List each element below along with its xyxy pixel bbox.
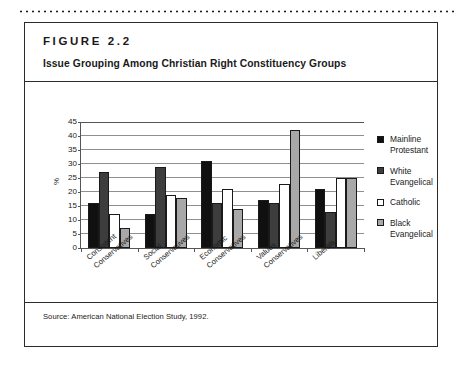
y-tick-label: 0 [73, 244, 77, 252]
bar [315, 189, 326, 248]
figure-header: FIGURE 2.2 Issue Grouping Among Christia… [25, 23, 437, 82]
legend-item: Catholic [377, 197, 457, 208]
figure-title: Issue Grouping Among Christian Right Con… [43, 58, 346, 69]
legend-swatch-icon [377, 219, 384, 226]
chart-legend: Mainline ProtestantWhite EvangelicalCath… [377, 134, 457, 249]
legend-label: White Evangelical [390, 166, 433, 189]
y-tick-label: 10 [68, 216, 77, 224]
y-tick-label: 35 [68, 146, 77, 154]
figure-footer: Source: American National Election Study… [25, 302, 437, 346]
legend-item: Mainline Protestant [377, 134, 457, 157]
legend-label: Catholic [390, 197, 420, 208]
legend-swatch-icon [377, 136, 384, 143]
decorative-dotted-rule [18, 10, 454, 13]
legend-item: Black Evangelical [377, 218, 457, 241]
y-tick-label: 5 [73, 230, 77, 238]
bar [346, 178, 357, 248]
y-tick-label: 40 [68, 132, 77, 140]
legend-label: Mainline Protestant [390, 134, 428, 157]
legend-label: Black Evangelical [390, 218, 433, 241]
x-tick-mark [364, 248, 365, 252]
y-tick-label: 15 [68, 202, 77, 210]
legend-item: White Evangelical [377, 166, 457, 189]
bar [201, 161, 212, 248]
legend-swatch-icon [377, 167, 384, 174]
y-tick-label: 45 [68, 118, 77, 126]
chart-area: % 051015202530354045 Consistent Conserva… [25, 82, 437, 302]
figure-number: FIGURE 2.2 [43, 35, 132, 47]
bar [258, 200, 269, 248]
y-tick-label: 25 [68, 174, 77, 182]
source-note: Source: American National Election Study… [43, 312, 209, 321]
y-tick-label: 20 [68, 188, 77, 196]
y-axis-title: % [52, 178, 61, 185]
figure-frame: FIGURE 2.2 Issue Grouping Among Christia… [24, 22, 438, 347]
y-tick-label: 30 [68, 160, 77, 168]
legend-swatch-icon [377, 199, 384, 206]
